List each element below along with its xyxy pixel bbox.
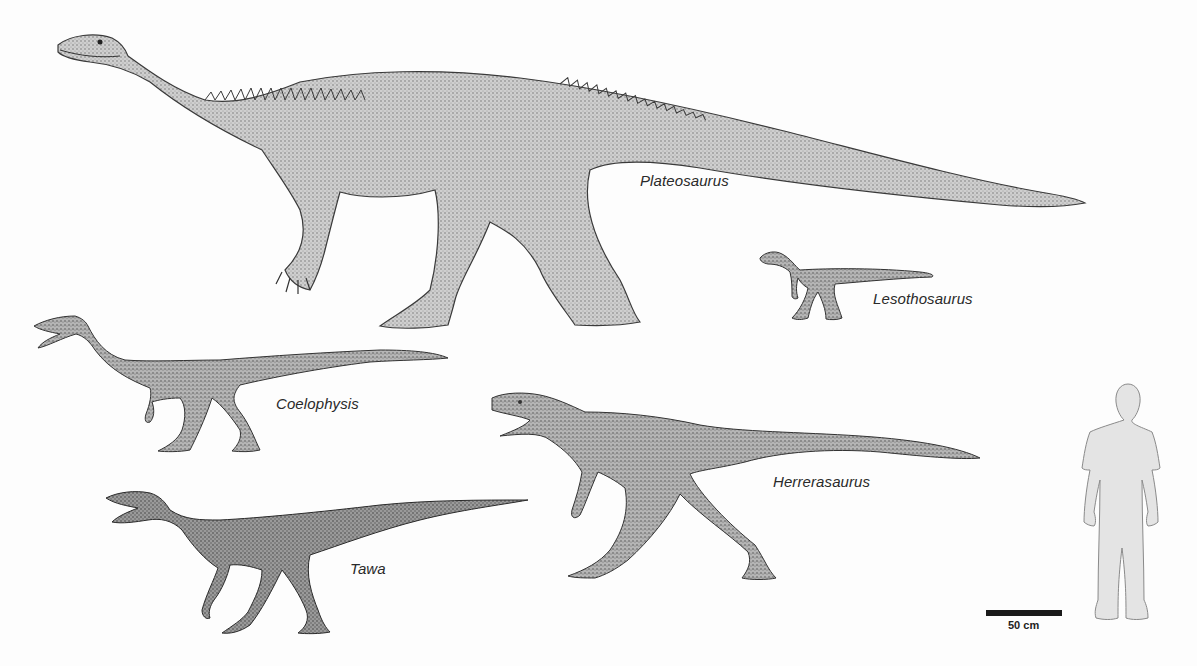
label-herrerasaurus: Herrerasaurus <box>773 473 870 490</box>
scale-bar <box>986 610 1062 616</box>
label-plateosaurus: Plateosaurus <box>640 172 729 189</box>
label-lesothosaurus: Lesothosaurus <box>873 290 973 307</box>
dinosaur-illustrations <box>0 0 1197 666</box>
size-comparison-figure: Plateosaurus Lesothosaurus Coelophysis H… <box>0 0 1197 666</box>
human-silhouette <box>1082 384 1160 620</box>
label-tawa: Tawa <box>350 560 386 577</box>
label-coelophysis: Coelophysis <box>276 395 359 412</box>
coelophysis-illustration <box>34 316 448 452</box>
herrerasaurus-illustration <box>492 393 980 579</box>
plateosaurus-illustration <box>58 35 1085 328</box>
tawa-illustration <box>106 492 528 634</box>
scale-bar-label: 50 cm <box>1008 619 1039 631</box>
lesothosaurus-illustration <box>760 252 933 320</box>
